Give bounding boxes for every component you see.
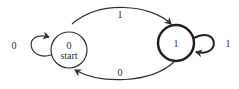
transition-1-to-1: 1 — [194, 35, 231, 53]
transition-1-to-0: 0 — [75, 62, 174, 80]
state-0: 0 start — [51, 32, 87, 68]
state-1-label: 1 — [174, 38, 179, 49]
fsa-diagram: 0 start 1 0 1 1 0 — [0, 0, 239, 89]
transition-0-to-0-label: 0 — [12, 40, 17, 51]
transition-0-to-1-label: 1 — [118, 9, 123, 20]
transition-1-to-0-label: 0 — [118, 67, 123, 78]
transition-0-to-1: 1 — [72, 7, 171, 24]
state-0-start-label: start — [60, 50, 77, 61]
transition-1-to-1-label: 1 — [226, 38, 231, 49]
state-1: 1 — [158, 25, 194, 61]
transition-0-to-0: 0 — [12, 36, 52, 56]
